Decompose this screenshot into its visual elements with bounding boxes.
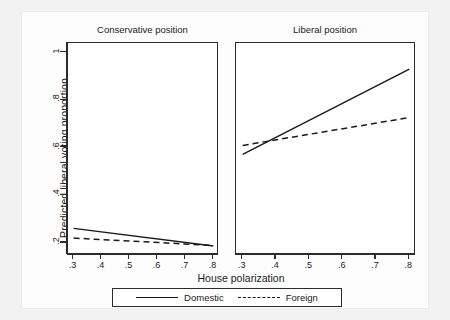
x-axis-spine-right bbox=[235, 254, 415, 255]
x-axis-spine-left bbox=[67, 254, 218, 255]
series-line-foreign bbox=[74, 238, 214, 245]
x-tickmark bbox=[184, 254, 185, 259]
legend-label-domestic: Domestic bbox=[184, 292, 224, 303]
y-tick-label: 1 bbox=[51, 43, 61, 59]
y-tick-label: .6 bbox=[51, 138, 61, 154]
x-tick-label: .6 bbox=[334, 260, 350, 270]
x-tickmark bbox=[308, 254, 309, 259]
y-tick-label: .2 bbox=[51, 233, 61, 249]
series-lines-conservative bbox=[68, 43, 218, 254]
x-tick-label: .3 bbox=[234, 260, 250, 270]
x-tick-label: .7 bbox=[176, 260, 192, 270]
x-tick-label: .4 bbox=[93, 260, 109, 270]
figure-canvas: Predicted liberal voting proportion 1.8.… bbox=[0, 0, 450, 320]
legend-entry-foreign: Foreign bbox=[238, 292, 318, 303]
x-tickmark bbox=[274, 254, 275, 259]
series-line-foreign bbox=[243, 118, 410, 146]
plot-card: Predicted liberal voting proportion 1.8.… bbox=[22, 12, 428, 308]
x-tickmark bbox=[72, 254, 73, 259]
x-tick-label: .4 bbox=[267, 260, 283, 270]
x-tickmark bbox=[128, 254, 129, 259]
x-tickmark bbox=[100, 254, 101, 259]
x-tick-label: .6 bbox=[148, 260, 164, 270]
panel-title-liberal: Liberal position bbox=[235, 24, 415, 35]
legend-line-solid-icon bbox=[136, 294, 178, 302]
legend: Domestic Foreign bbox=[112, 288, 342, 307]
legend-label-foreign: Foreign bbox=[286, 292, 318, 303]
x-axis-title: House polarization bbox=[67, 272, 415, 284]
x-tickmark bbox=[408, 254, 409, 259]
series-lines-liberal bbox=[236, 43, 415, 254]
legend-line-dashed-icon bbox=[238, 294, 280, 302]
panel-conservative-position bbox=[67, 42, 218, 254]
legend-entry-domestic: Domestic bbox=[136, 292, 224, 303]
x-tickmark bbox=[341, 254, 342, 259]
x-tickmark bbox=[212, 254, 213, 259]
x-tickmark bbox=[156, 254, 157, 259]
y-tick-label: .8 bbox=[51, 90, 61, 106]
x-tick-label: .3 bbox=[65, 260, 81, 270]
x-tick-label: .8 bbox=[400, 260, 416, 270]
x-tick-label: .5 bbox=[121, 260, 137, 270]
x-tick-label: .8 bbox=[204, 260, 220, 270]
x-tick-label: .5 bbox=[300, 260, 316, 270]
x-tickmark bbox=[374, 254, 375, 259]
x-tickmark bbox=[241, 254, 242, 259]
series-line-domestic bbox=[74, 228, 214, 246]
panel-liberal-position bbox=[235, 42, 415, 254]
y-tick-label: .4 bbox=[51, 185, 61, 201]
panel-title-conservative: Conservative position bbox=[67, 24, 218, 35]
x-tick-label: .7 bbox=[367, 260, 383, 270]
